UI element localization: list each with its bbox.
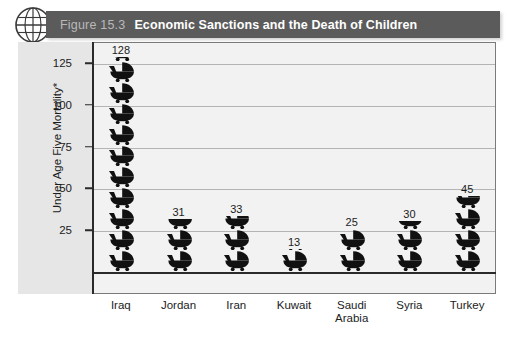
y-tick-label: 125	[36, 57, 72, 69]
baby-pram-icon	[222, 229, 252, 250]
y-tick-mark	[85, 146, 92, 148]
y-tick-mark	[85, 229, 92, 231]
bar-pictogram-stack	[165, 219, 195, 271]
baby-pram-icon	[165, 219, 195, 229]
bar-value-label: 31	[149, 206, 209, 218]
baby-pram-icon	[107, 103, 137, 124]
bar	[280, 249, 310, 271]
y-tick-label: 50	[36, 182, 72, 194]
baby-pram-icon	[222, 250, 252, 271]
bar	[338, 229, 368, 271]
figure-number: Figure 15.3	[60, 18, 125, 32]
gridline	[93, 231, 495, 232]
baby-pram-icon	[222, 216, 252, 229]
baby-pram-icon	[107, 61, 137, 82]
x-axis-line	[92, 272, 496, 274]
x-axis-label: Turkey	[429, 299, 505, 312]
bar	[395, 221, 425, 271]
gridline	[93, 189, 495, 190]
baby-pram-icon	[453, 229, 483, 250]
bar-value-label: 45	[437, 183, 497, 195]
y-tick-label: 100	[36, 99, 72, 111]
bar	[453, 196, 483, 271]
bar-pictogram-stack	[280, 249, 310, 271]
bar-value-label: 30	[379, 208, 439, 220]
baby-pram-icon	[165, 250, 195, 271]
bar-value-label: 128	[91, 44, 151, 56]
bar	[107, 57, 137, 271]
baby-pram-icon	[107, 82, 137, 103]
bar-pictogram-stack	[107, 57, 137, 271]
y-axis-panel: Under Age Five Mortality*	[18, 42, 92, 294]
baby-pram-icon	[107, 166, 137, 187]
bar	[222, 216, 252, 271]
baby-pram-icon	[280, 250, 310, 271]
baby-pram-icon	[107, 250, 137, 271]
baby-pram-icon	[453, 196, 483, 208]
bar-value-label: 13	[264, 236, 324, 248]
plot-area	[92, 42, 496, 294]
baby-pram-icon	[165, 229, 195, 250]
baby-pram-icon	[338, 229, 368, 250]
baby-pram-icon	[453, 250, 483, 271]
y-tick-label: 75	[36, 141, 72, 153]
bar-pictogram-stack	[395, 221, 425, 271]
baby-pram-icon	[338, 250, 368, 271]
y-axis-line	[92, 42, 94, 294]
baby-pram-icon	[453, 208, 483, 229]
bar-pictogram-stack	[338, 229, 368, 271]
baby-pram-icon	[107, 229, 137, 250]
bar-value-label: 25	[322, 216, 382, 228]
y-tick-label: 25	[36, 224, 72, 236]
baby-pram-icon	[395, 229, 425, 250]
baby-pram-icon	[107, 124, 137, 145]
y-tick-mark	[85, 62, 92, 64]
figure-title: Economic Sanctions and the Death of Chil…	[134, 18, 417, 32]
figure-container: Figure 15.3 Economic Sanctions and the D…	[0, 0, 513, 338]
baby-pram-icon	[107, 145, 137, 166]
y-tick-mark	[85, 188, 92, 190]
gridline	[93, 106, 495, 107]
bar-pictogram-stack	[222, 216, 252, 271]
baby-pram-icon	[107, 208, 137, 229]
baby-pram-icon	[107, 187, 137, 208]
bar	[165, 219, 195, 271]
baby-pram-icon	[395, 250, 425, 271]
y-tick-mark	[85, 104, 92, 106]
gridline	[93, 64, 495, 65]
gridline	[93, 148, 495, 149]
baby-pram-icon	[395, 221, 425, 229]
figure-title-band: Figure 15.3 Economic Sanctions and the D…	[46, 11, 500, 38]
bar-pictogram-stack	[453, 196, 483, 271]
bar-value-label: 33	[206, 203, 266, 215]
